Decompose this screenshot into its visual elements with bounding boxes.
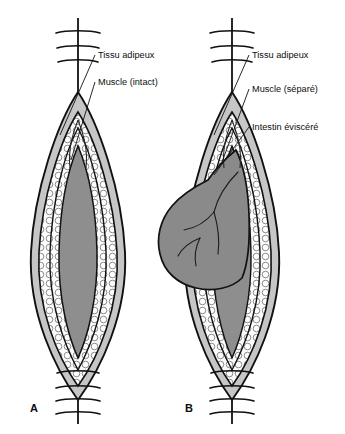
- panel-letter-b: B: [185, 402, 193, 414]
- panel-letter-a: A: [30, 402, 38, 414]
- label-tissu-adipeux-b: Tissu adipeux: [252, 50, 309, 60]
- label-muscle-intact-a: Muscle (intact): [98, 77, 158, 87]
- label-intestin-eviscere-b: Intestin éviscéré: [252, 122, 318, 132]
- wound-dehiscence-figure: Tissu adipeux Muscle (intact) A: [0, 0, 345, 434]
- label-tissu-adipeux-a: Tissu adipeux: [98, 50, 155, 60]
- label-muscle-separe-b: Muscle (séparé): [252, 84, 318, 94]
